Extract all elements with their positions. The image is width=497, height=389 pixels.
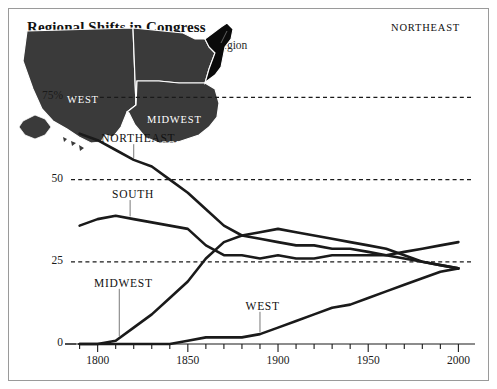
series-label-midwest: MIDWEST (94, 277, 153, 289)
series-label-south: SOUTH (112, 188, 154, 200)
map-label-west: WEST (67, 94, 99, 105)
x-tick-label-1850: 1850 (166, 354, 210, 366)
chart-frame: Regional Shifts in Congress Percent of H… (8, 8, 489, 381)
chart-gridlines (71, 97, 471, 261)
map-alaska (19, 115, 51, 139)
series-line-south (80, 216, 459, 259)
series-line-northeast (80, 134, 459, 269)
y-tick-label-50: 50 (29, 172, 63, 184)
y-tick-label-25: 25 (29, 254, 63, 266)
map-hawaii (63, 137, 84, 151)
x-tick-label-1800: 1800 (76, 354, 120, 366)
chart-series-lines (80, 134, 459, 344)
map-label-south: SOUTH (161, 139, 200, 150)
y-tick-label-0: 0 (29, 336, 63, 348)
map-label-midwest: MIDWEST (147, 114, 202, 125)
x-tick-label-1900: 1900 (256, 354, 300, 366)
x-tick-label-1950: 1950 (346, 354, 390, 366)
series-label-west: WEST (246, 300, 280, 312)
line-chart-canvas (9, 9, 490, 382)
y-tick-label-75: 75% (29, 89, 63, 101)
map-label-northeast: NORTHEAST (391, 22, 460, 33)
x-tick-label-2000: 2000 (436, 354, 480, 366)
chart-series-leader-lines (119, 144, 260, 336)
